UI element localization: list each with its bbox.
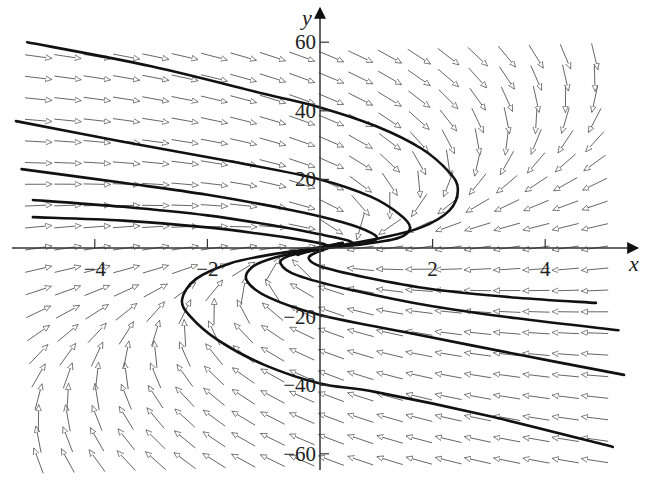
field-arrow — [581, 375, 608, 377]
field-arrow — [84, 184, 111, 185]
field-arrow — [121, 384, 131, 409]
field-arrow — [349, 156, 372, 170]
field-arrow — [290, 327, 314, 339]
field-arrow — [594, 64, 595, 91]
x-tick-label: 2 — [427, 257, 438, 281]
field-arrow — [466, 199, 489, 213]
field-arrow — [201, 96, 227, 102]
field-arrow — [319, 371, 344, 380]
field-arrow — [406, 457, 432, 464]
field-arrow — [25, 119, 52, 121]
field-arrow — [119, 322, 134, 345]
y-tick-label: 20 — [295, 167, 316, 191]
field-arrow — [464, 269, 491, 270]
field-arrow — [91, 342, 103, 366]
field-arrow — [54, 226, 81, 228]
field-arrow — [501, 87, 512, 112]
field-arrow — [113, 76, 140, 81]
field-arrow — [177, 365, 193, 387]
field-arrow — [406, 436, 432, 443]
field-arrow — [378, 92, 401, 106]
field-arrow — [408, 70, 430, 86]
field-arrow — [25, 55, 52, 59]
field-arrow — [531, 129, 541, 154]
field-arrow — [552, 224, 578, 230]
field-arrow — [435, 415, 461, 421]
field-arrow — [230, 117, 256, 124]
field-arrow — [54, 98, 81, 101]
field-arrow — [533, 86, 539, 112]
field-arrow — [201, 118, 228, 124]
field-arrow — [65, 405, 70, 432]
field-arrow — [493, 311, 520, 312]
field-arrow — [260, 181, 286, 187]
field-arrow — [230, 204, 257, 207]
field-arrow — [319, 115, 344, 126]
field-arrow — [262, 326, 284, 341]
field-arrow — [113, 162, 140, 164]
field-arrow — [442, 130, 455, 154]
y-tick-label: 40 — [295, 99, 316, 123]
field-arrow — [552, 416, 579, 420]
field-arrow — [348, 435, 374, 444]
field-arrow — [204, 366, 224, 385]
field-arrow — [147, 408, 164, 429]
field-arrow — [435, 457, 461, 464]
field-arrow — [289, 137, 315, 146]
field-arrow — [29, 345, 48, 365]
field-arrow — [55, 286, 80, 295]
x-tick-label: 4 — [540, 257, 551, 281]
field-arrow — [25, 266, 51, 272]
field-arrow — [113, 226, 140, 228]
field-arrow — [581, 354, 608, 356]
field-arrow — [552, 268, 579, 270]
field-arrow — [184, 320, 186, 347]
field-arrow — [67, 383, 69, 410]
field-arrow — [552, 395, 579, 398]
field-arrow — [465, 458, 491, 464]
field-arrow — [497, 176, 518, 194]
field-arrow — [176, 387, 194, 407]
field-arrow — [494, 437, 521, 442]
field-arrow — [377, 414, 403, 421]
field-arrow — [348, 372, 374, 380]
field-arrow — [203, 453, 226, 468]
field-arrow — [412, 194, 427, 216]
field-arrow — [86, 305, 109, 320]
field-arrow — [440, 110, 457, 131]
field-arrow — [27, 325, 49, 340]
field-arrow — [418, 171, 421, 198]
field-arrow — [63, 427, 73, 452]
field-arrow — [25, 205, 52, 206]
field-arrow — [499, 67, 514, 90]
field-arrow — [531, 66, 542, 91]
field-arrow — [523, 311, 550, 312]
field-arrow — [377, 436, 403, 444]
field-arrow — [498, 46, 515, 67]
field-arrow — [319, 392, 344, 401]
direction-field-arrows — [25, 44, 608, 474]
field-arrow — [348, 456, 374, 465]
field-arrow — [237, 300, 250, 324]
field-arrow — [63, 363, 72, 388]
field-arrow — [148, 386, 163, 409]
field-arrow — [552, 353, 579, 355]
field-arrow — [495, 200, 519, 212]
field-arrow — [232, 454, 256, 467]
field-arrow — [260, 74, 286, 82]
field-arrow — [552, 458, 579, 463]
field-arrow — [406, 415, 432, 422]
field-arrow — [376, 269, 403, 270]
field-arrow — [54, 76, 81, 80]
field-arrow — [582, 224, 608, 230]
field-arrow — [261, 412, 285, 424]
field-arrow — [377, 351, 403, 357]
field-arrow — [408, 91, 429, 108]
field-arrow — [464, 374, 491, 378]
field-arrow — [406, 310, 433, 313]
field-arrow — [529, 45, 543, 68]
field-arrow — [348, 72, 372, 84]
field-arrow — [116, 303, 137, 320]
field-arrow — [142, 226, 169, 228]
field-arrow — [260, 52, 286, 60]
